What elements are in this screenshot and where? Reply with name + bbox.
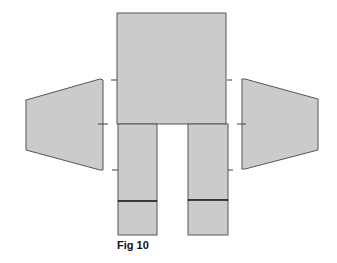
figure-caption: Fig 10: [117, 239, 149, 251]
right-foot-panel: [188, 200, 228, 235]
left-foot-panel: [118, 201, 157, 235]
pattern-diagram: Fig 10: [0, 0, 337, 263]
right-leg-panel: [188, 124, 228, 200]
left-leg-panel: [118, 124, 157, 201]
pattern-pieces-svg: [0, 0, 337, 263]
right-wing-panel: [242, 79, 318, 169]
body-panel: [117, 13, 226, 124]
left-wing-panel: [26, 79, 103, 170]
